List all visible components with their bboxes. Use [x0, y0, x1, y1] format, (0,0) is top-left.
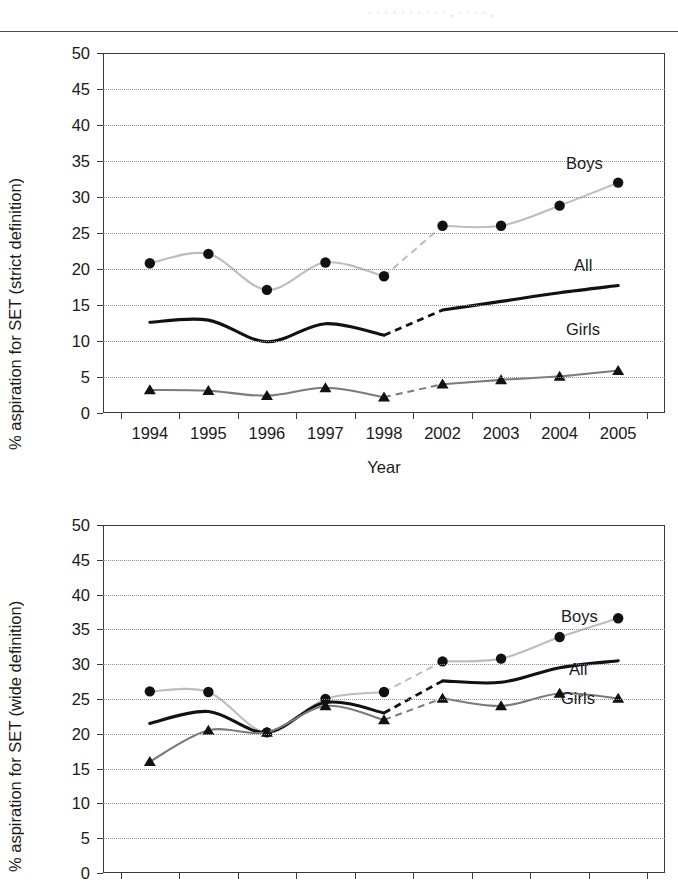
series-label-boys: Boys [566, 154, 603, 173]
y-tick-label: 20 [72, 261, 90, 278]
series-gap-dash-boys [384, 661, 443, 692]
y-tick-mark [97, 269, 103, 270]
grid-line [103, 560, 665, 561]
y-tick-mark [97, 769, 103, 770]
y-tick-mark [97, 89, 103, 90]
y-tick-label: 5 [81, 369, 90, 386]
data-point-marker-circle [496, 653, 506, 663]
x-tick-mark [647, 413, 648, 419]
y-tick-mark [97, 629, 103, 630]
x-axis-ticks: 199419951996199719982002200320042005 [103, 424, 665, 446]
y-tick-label: 15 [72, 760, 90, 777]
y-tick-label: 40 [72, 117, 90, 134]
x-tick-mark [355, 873, 356, 879]
data-point-marker-triangle [144, 756, 156, 766]
x-tick-label: 2002 [424, 424, 461, 443]
y-tick-label: 5 [81, 830, 90, 847]
data-point-marker-circle [379, 271, 389, 281]
x-tick-label: 1998 [366, 424, 403, 443]
data-point-marker-circle [554, 200, 564, 210]
y-tick-mark [97, 560, 103, 561]
grid-line [103, 734, 665, 735]
data-point-marker-circle [437, 221, 447, 231]
grid-line [103, 89, 665, 90]
x-tick-label: 2004 [541, 424, 578, 443]
x-tick-label: 2005 [600, 424, 637, 443]
y-tick-mark [97, 53, 103, 54]
y-tick-label: 45 [72, 552, 90, 569]
y-tick-mark [97, 803, 103, 804]
data-point-marker-circle [262, 285, 272, 295]
grid-line [103, 838, 665, 839]
series-line-boys [150, 253, 384, 290]
x-tick-label: 1995 [190, 424, 227, 443]
grid-line [103, 305, 665, 306]
series-label-girls: Girls [561, 689, 595, 708]
y-tick-label: 0 [81, 405, 90, 422]
y-tick-mark [97, 233, 103, 234]
y-tick-label: 30 [72, 656, 90, 673]
x-tick-label: 1996 [249, 424, 286, 443]
y-tick-label: 25 [72, 225, 90, 242]
series-gap-dash-all [384, 310, 443, 335]
x-tick-mark [238, 873, 239, 879]
x-tick-label: 1997 [307, 424, 344, 443]
y-tick-label: 25 [72, 691, 90, 708]
x-tick-mark [472, 413, 473, 419]
data-point-marker-circle [613, 613, 623, 623]
y-tick-label: 30 [72, 189, 90, 206]
y-tick-mark [97, 699, 103, 700]
y-tick-mark [97, 838, 103, 839]
data-point-marker-circle [145, 686, 155, 696]
chart-strict-definition: % aspiration for SET (strict definition)… [0, 40, 678, 495]
y-tick-label: 15 [72, 297, 90, 314]
x-tick-label: 2003 [483, 424, 520, 443]
x-tick-mark [296, 873, 297, 879]
series-label-girls: Girls [566, 320, 600, 339]
y-tick-mark [97, 664, 103, 665]
y-tick-mark [97, 734, 103, 735]
x-tick-mark [589, 413, 590, 419]
x-tick-mark [472, 873, 473, 879]
x-tick-mark [179, 873, 180, 879]
y-tick-label: 50 [72, 45, 90, 62]
y-tick-mark [97, 197, 103, 198]
x-tick-mark [296, 413, 297, 419]
y-tick-mark [97, 873, 103, 874]
page-header-artifact: · · · · · · · · · · , · · · · , [368, 6, 668, 22]
y-tick-label: 40 [72, 586, 90, 603]
grid-line [103, 769, 665, 770]
grid-line [103, 595, 665, 596]
x-tick-mark [413, 413, 414, 419]
y-tick-label: 10 [72, 795, 90, 812]
x-tick-mark [121, 413, 122, 419]
x-tick-mark [121, 873, 122, 879]
y-axis-title: % aspiration for SET (strict definition) [6, 50, 25, 450]
x-tick-label: 1994 [131, 424, 168, 443]
grid-line [103, 803, 665, 804]
y-tick-label: 0 [81, 865, 90, 882]
y-tick-label: 35 [72, 621, 90, 638]
data-point-marker-circle [320, 257, 330, 267]
x-tick-mark [530, 873, 531, 879]
grid-line [103, 197, 665, 198]
grid-line [103, 125, 665, 126]
y-axis-ticks: 05101520253035404550 [56, 40, 90, 460]
series-label-all: All [569, 660, 587, 679]
data-point-marker-triangle [437, 693, 449, 703]
data-point-marker-circle [145, 258, 155, 268]
series-gap-dash-girls [384, 698, 443, 720]
series-line-all [443, 286, 619, 310]
chart-wide-definition: % aspiration for SET (wide definition) 0… [0, 512, 678, 875]
y-tick-mark [97, 377, 103, 378]
y-tick-label: 20 [72, 726, 90, 743]
series-gap-dash-girls [384, 384, 443, 397]
data-point-marker-circle [496, 221, 506, 231]
grid-line [103, 377, 665, 378]
header-divider [0, 31, 678, 32]
plot-area [103, 53, 665, 413]
data-point-marker-circle [554, 632, 564, 642]
y-tick-mark [97, 305, 103, 306]
x-tick-mark [179, 413, 180, 419]
